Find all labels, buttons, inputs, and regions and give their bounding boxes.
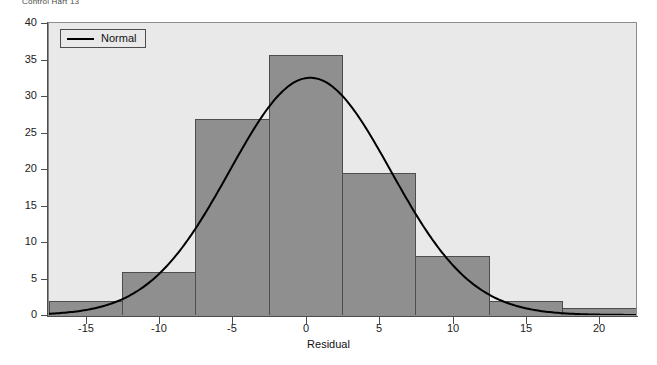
y-axis-tick-label: 5 (31, 272, 37, 284)
figure-caption: Control Hart 13 (22, 0, 79, 4)
histogram-figure: Control Hart 13 0510152025303540 -15-10-… (0, 0, 657, 365)
y-axis-tick (41, 242, 48, 243)
y-axis-tick (41, 96, 48, 97)
y-axis-tick (41, 315, 48, 316)
y-axis-tick-label: 15 (25, 199, 37, 211)
y-axis-tick (41, 60, 48, 61)
x-axis-line (47, 316, 638, 317)
chart-legend: Normal (60, 29, 146, 48)
x-axis-tick-label: 5 (359, 322, 399, 334)
y-axis-tick-label: 20 (25, 162, 37, 174)
histogram-bar (196, 119, 269, 315)
legend-label-normal: Normal (101, 33, 136, 44)
x-axis-tick-label: 20 (579, 322, 619, 334)
y-axis-tick-label: 10 (25, 235, 37, 247)
y-axis-tick-label: 0 (31, 308, 37, 320)
x-axis-tick-label: 10 (433, 322, 473, 334)
y-axis-tick-label: 35 (25, 53, 37, 65)
y-axis-tick-label: 25 (25, 126, 37, 138)
y-axis-tick (41, 206, 48, 207)
histogram-plot-svg (49, 23, 636, 315)
legend-line-swatch-normal (67, 38, 94, 40)
x-axis-tick-label: -15 (66, 322, 106, 334)
y-axis-tick (41, 169, 48, 170)
y-axis-tick-label: 40 (25, 16, 37, 28)
x-axis-tick-label: -10 (139, 322, 179, 334)
y-axis-tick (41, 279, 48, 280)
x-axis-tick-label: -5 (212, 322, 252, 334)
x-axis-tick-label: 15 (506, 322, 546, 334)
x-axis-title: Residual (0, 338, 657, 350)
y-axis-tick (41, 23, 48, 24)
y-axis-tick (41, 133, 48, 134)
plot-area (48, 22, 637, 316)
y-axis-tick-label: 30 (25, 89, 37, 101)
x-axis-tick-label: 0 (286, 322, 326, 334)
